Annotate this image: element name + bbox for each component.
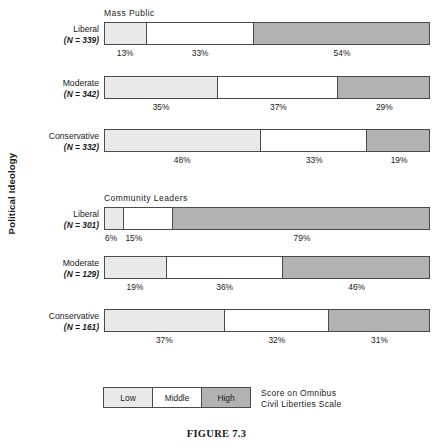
row-label-mass-public-conservative: Conservative (N = 332) <box>0 131 99 152</box>
group-header-mass-public: Mass Public <box>104 8 155 18</box>
legend: Low Middle High <box>103 387 251 408</box>
bar-segment-middle[interactable] <box>225 310 329 331</box>
value-label-middle: 37% <box>218 102 339 114</box>
bar-segment-high[interactable] <box>329 310 429 331</box>
table-row[interactable] <box>104 76 430 99</box>
value-label-low: 37% <box>104 335 225 347</box>
legend-item-high[interactable]: High <box>202 388 250 407</box>
bar-segment-low[interactable] <box>105 257 167 278</box>
bar-segment-middle[interactable] <box>124 208 173 229</box>
row-label-name: Liberal <box>0 24 99 35</box>
bar-segment-middle[interactable] <box>147 23 254 44</box>
legend-item-low[interactable]: Low <box>104 388 153 407</box>
row-label-n: (N = 339) <box>0 35 99 46</box>
group-header-community-leaders: Community Leaders <box>104 193 188 203</box>
row-label-n: (N = 301) <box>0 220 99 231</box>
bar-segment-low[interactable] <box>105 130 261 151</box>
value-label-high: 29% <box>339 102 430 114</box>
value-label-low: 19% <box>104 282 166 294</box>
row-label-mass-public-liberal: Liberal (N = 339) <box>0 24 99 45</box>
value-labels-row: 6% 15% 79% <box>104 233 430 245</box>
value-label-low: 6% <box>104 233 124 245</box>
row-label-n: (N = 129) <box>0 269 99 280</box>
row-label-community-leaders-conservative: Conservative (N = 161) <box>0 311 99 332</box>
bar-segment-low[interactable] <box>105 208 124 229</box>
bar-segment-high[interactable] <box>367 130 429 151</box>
bar-segment-high[interactable] <box>254 23 429 44</box>
row-label-mass-public-moderate: Moderate (N = 342) <box>0 78 99 99</box>
row-label-name: Conservative <box>0 311 99 322</box>
row-label-n: (N = 342) <box>0 89 99 100</box>
table-row[interactable] <box>104 22 430 45</box>
value-label-middle: 32% <box>225 335 329 347</box>
value-label-low: 13% <box>104 48 146 60</box>
value-label-high: 31% <box>329 335 430 347</box>
bar-segment-low[interactable] <box>105 77 218 98</box>
value-labels-row: 35% 37% 29% <box>104 102 430 114</box>
value-label-high: 46% <box>283 282 430 294</box>
bar-segment-low[interactable] <box>105 310 225 331</box>
row-label-n: (N = 332) <box>0 142 99 153</box>
table-row[interactable] <box>104 309 430 332</box>
row-label-community-leaders-moderate: Moderate (N = 129) <box>0 258 99 279</box>
row-label-name: Liberal <box>0 209 99 220</box>
legend-caption: Score on Omnibus Civil Liberties Scale <box>261 388 341 410</box>
value-labels-row: 37% 32% 31% <box>104 335 430 347</box>
bar-segment-high[interactable] <box>283 257 429 278</box>
table-row[interactable] <box>104 129 430 152</box>
value-label-middle: 15% <box>124 233 174 245</box>
value-label-middle: 33% <box>260 155 368 167</box>
table-row[interactable] <box>104 256 430 279</box>
value-labels-row: 48% 33% 19% <box>104 155 430 167</box>
value-label-high: 19% <box>368 155 430 167</box>
value-labels-row: 13% 33% 54% <box>104 48 430 60</box>
row-label-name: Moderate <box>0 258 99 269</box>
row-label-name: Conservative <box>0 131 99 142</box>
bar-segment-middle[interactable] <box>261 130 368 151</box>
value-label-high: 54% <box>254 48 430 60</box>
table-row[interactable] <box>104 207 430 230</box>
value-label-high: 79% <box>174 233 430 245</box>
legend-caption-line1: Score on Omnibus <box>261 388 341 399</box>
figure-caption: FIGURE 7.3 <box>0 428 433 439</box>
legend-item-middle[interactable]: Middle <box>153 388 202 407</box>
value-label-low: 48% <box>104 155 260 167</box>
bar-segment-middle[interactable] <box>218 77 338 98</box>
bar-segment-high[interactable] <box>173 208 429 229</box>
row-label-community-leaders-liberal: Liberal (N = 301) <box>0 209 99 230</box>
legend-caption-line2: Civil Liberties Scale <box>261 399 341 410</box>
bar-segment-middle[interactable] <box>167 257 284 278</box>
value-labels-row: 19% 36% 46% <box>104 282 430 294</box>
bar-segment-high[interactable] <box>338 77 429 98</box>
row-label-n: (N = 161) <box>0 322 99 333</box>
value-label-middle: 33% <box>146 48 254 60</box>
value-label-middle: 36% <box>166 282 283 294</box>
row-label-name: Moderate <box>0 78 99 89</box>
value-label-low: 35% <box>104 102 218 114</box>
bar-segment-low[interactable] <box>105 23 147 44</box>
